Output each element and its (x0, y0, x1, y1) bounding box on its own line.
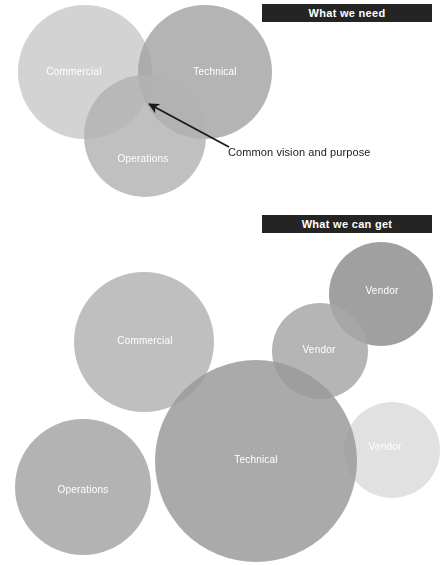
diagram-canvas (0, 0, 445, 565)
banner-what-we-can-get-label: What we can get (302, 218, 393, 230)
circle-vendor-light[interactable] (344, 402, 440, 498)
circle-operations-get[interactable] (15, 419, 151, 555)
venn-group-what-we-need (18, 5, 272, 197)
banner-what-we-need-label: What we need (309, 7, 386, 19)
banner-what-we-need: What we need (262, 4, 432, 22)
circle-operations-need[interactable] (84, 75, 206, 197)
circle-group-what-we-can-get (15, 242, 440, 562)
banner-what-we-can-get: What we can get (262, 215, 432, 233)
annotation-common-vision-and-purpose: Common vision and purpose (228, 146, 371, 158)
circle-technical-get[interactable] (155, 360, 357, 562)
